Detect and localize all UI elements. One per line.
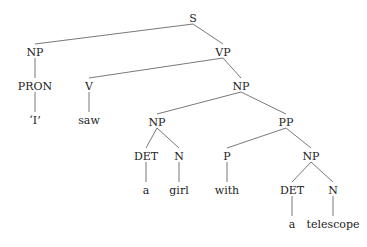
tree-edge (227, 128, 286, 148)
tree-edge (193, 24, 223, 44)
tree-edge (311, 162, 333, 182)
tree-node-pp: PP (279, 116, 294, 129)
tree-edge (157, 128, 179, 148)
tree-edge (223, 58, 241, 78)
tree-edge (89, 58, 223, 78)
tree-edge (292, 162, 311, 182)
tree-node-det1: DET (134, 150, 159, 163)
tree-edge (241, 92, 286, 114)
tree-node-p: P (223, 150, 231, 163)
syntax-tree: SNPVPPRONVNP‘I’sawNPPPDETNPNPagirlwithDE… (0, 0, 367, 247)
tree-node-pron: PRON (18, 80, 53, 93)
tree-edge (157, 92, 241, 114)
tree-node-det2: DET (280, 184, 305, 197)
tree-node-saw: saw (78, 114, 100, 127)
tree-node-a2: a (289, 218, 296, 231)
tree-node-np2: NP (232, 80, 250, 93)
tree-node-np1: NP (26, 46, 44, 59)
tree-node-with: with (215, 184, 239, 197)
tree-node-n1: N (174, 150, 184, 163)
tree-node-i: ‘I’ (29, 114, 40, 127)
tree-node-n2: N (328, 184, 338, 197)
tree-nodes: SNPVPPRONVNP‘I’sawNPPPDETNPNPagirlwithDE… (18, 12, 360, 231)
tree-edge (286, 128, 311, 148)
tree-node-np4: NP (302, 150, 320, 163)
tree-node-a1: a (143, 184, 150, 197)
tree-node-np3: NP (148, 116, 166, 129)
tree-node-vp: VP (214, 46, 231, 59)
tree-edge (35, 24, 193, 44)
tree-node-s: S (189, 12, 197, 25)
tree-node-v: V (84, 80, 94, 93)
tree-node-girl: girl (169, 184, 189, 197)
tree-edge (146, 128, 157, 148)
tree-node-telescope: telescope (307, 218, 360, 231)
